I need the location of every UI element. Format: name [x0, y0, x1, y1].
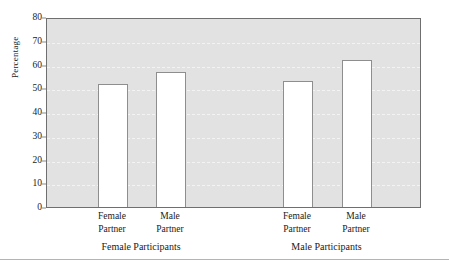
x-tick-label-line2: Partner	[130, 223, 210, 236]
y-tick-label: 60	[33, 61, 43, 71]
x-tick-label-line1: Male	[130, 210, 210, 223]
bar	[283, 81, 313, 207]
y-tick-label: 70	[33, 37, 43, 47]
bar	[98, 84, 128, 208]
y-tick-label: 10	[33, 180, 43, 190]
x-tick-label-line1: Male	[316, 210, 396, 223]
x-group-label: Male Participants	[237, 240, 417, 253]
bar	[342, 60, 372, 207]
x-axis-tick-labels: FemalePartnerMalePartnerFemalePartnerMal…	[46, 210, 421, 240]
plot-area	[46, 18, 421, 208]
x-axis-group-labels: Female ParticipantsMale Participants	[46, 240, 421, 256]
x-tick-label: MalePartner	[130, 210, 210, 235]
y-tick-label: 50	[33, 85, 43, 95]
y-tick-label: 40	[33, 108, 43, 118]
bottom-rule	[0, 259, 449, 260]
x-tick-label-line2: Partner	[316, 223, 396, 236]
x-tick-label: MalePartner	[316, 210, 396, 235]
y-tick-label: 20	[33, 156, 43, 166]
bar	[156, 72, 186, 207]
gridline	[47, 43, 420, 44]
bar-chart-figure: Percentage 80706050403020100 FemalePartn…	[0, 0, 449, 266]
y-tick-label: 80	[33, 13, 43, 23]
y-tick-label: 30	[33, 132, 43, 142]
y-axis-tick-labels: 80706050403020100	[18, 18, 42, 208]
x-group-label: Female Participants	[51, 240, 231, 253]
